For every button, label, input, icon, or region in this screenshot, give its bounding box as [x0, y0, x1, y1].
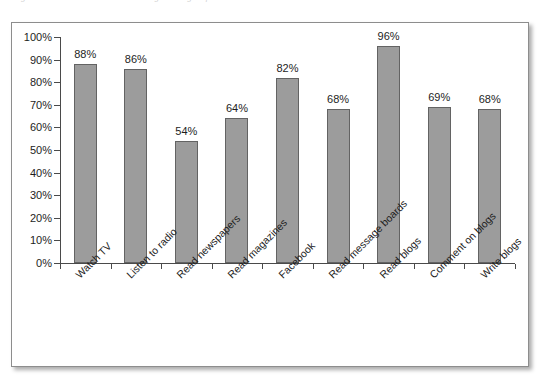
bar-chart-plot-area: 0%10%20%30%40%50%60%70%80%90%100% 88%86%…: [12, 23, 530, 368]
figure-caption-strip: Figure 1. Media and social-media usage a…: [0, 0, 549, 9]
bar: [276, 78, 299, 263]
bar-value-label: 68%: [327, 93, 349, 105]
y-axis-tick: [54, 173, 60, 174]
x-axis-tick: [363, 264, 364, 269]
bar-value-label: 69%: [428, 91, 450, 103]
bar: [124, 69, 147, 263]
x-axis-tick: [161, 264, 162, 269]
x-axis-tick: [464, 264, 465, 269]
y-axis-tick-label: 40%: [12, 167, 52, 179]
bar: [225, 118, 248, 263]
bar-value-label: 54%: [175, 125, 197, 137]
bar: [478, 109, 501, 263]
x-axis-tick: [212, 264, 213, 269]
y-axis-tick: [54, 37, 60, 38]
figure-caption-text: Figure 1. Media and social-media usage a…: [14, 0, 240, 2]
y-axis-line: [60, 37, 61, 264]
bar-value-label: 68%: [479, 93, 501, 105]
y-axis-tick: [54, 127, 60, 128]
bar-value-label: 88%: [74, 48, 96, 60]
bar: [74, 64, 97, 263]
figure-frame: 0%10%20%30%40%50%60%70%80%90%100% 88%86%…: [11, 22, 529, 367]
bar: [327, 109, 350, 263]
y-axis-tick: [54, 195, 60, 196]
x-axis-tick: [414, 264, 415, 269]
y-axis-tick: [54, 240, 60, 241]
y-axis-tick-label: 60%: [12, 121, 52, 133]
y-axis-tick-label: 10%: [12, 234, 52, 246]
bar-value-label: 86%: [125, 53, 147, 65]
y-axis-tick: [54, 150, 60, 151]
y-axis-tick-label: 20%: [12, 212, 52, 224]
x-axis-tick: [60, 264, 61, 269]
y-axis-tick: [54, 60, 60, 61]
bar: [428, 107, 451, 263]
y-axis-tick-label: 0%: [12, 257, 52, 269]
bar-value-label: 64%: [226, 102, 248, 114]
y-axis-tick-label: 90%: [12, 54, 52, 66]
y-axis-tick-label: 100%: [12, 31, 52, 43]
y-axis-tick-label: 50%: [12, 144, 52, 156]
x-axis-tick: [262, 264, 263, 269]
bar: [175, 141, 198, 263]
x-axis-tick: [111, 264, 112, 269]
y-axis-tick: [54, 218, 60, 219]
y-axis-tick-label: 30%: [12, 189, 52, 201]
x-axis-tick: [515, 264, 516, 269]
x-axis-tick: [313, 264, 314, 269]
y-axis-tick-label: 80%: [12, 76, 52, 88]
bar-value-label: 96%: [378, 30, 400, 42]
bar-value-label: 82%: [276, 62, 298, 74]
y-axis-tick-label: 70%: [12, 99, 52, 111]
y-axis-tick: [54, 105, 60, 106]
y-axis-tick: [54, 82, 60, 83]
